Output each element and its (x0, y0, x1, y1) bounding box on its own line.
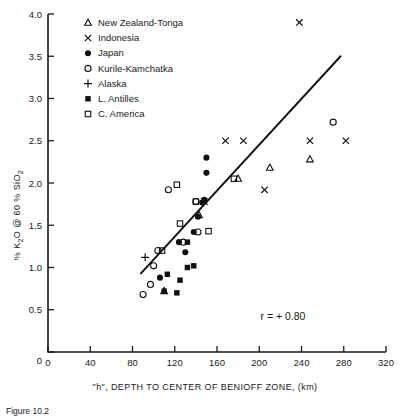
data-point (165, 272, 170, 277)
y-tick-label: 4.0 (29, 9, 42, 20)
x-tick-label: 320 (378, 357, 394, 368)
x-tick-label: 240 (294, 357, 310, 368)
y-tick-label: 2.0 (29, 178, 42, 189)
legend-marker (85, 50, 91, 56)
plot-background (0, 0, 403, 418)
legend-label: Indonesia (98, 32, 140, 43)
data-point (203, 155, 209, 161)
x-tick-label: 120 (167, 357, 183, 368)
data-point (182, 249, 188, 255)
legend-item-kurile-kamchatka: Kurile-Kamchatka (85, 63, 174, 74)
legend-label: Japan (98, 47, 124, 58)
data-point (157, 275, 163, 281)
y-tick-label: 2.5 (29, 135, 42, 146)
x-tick-label: 160 (209, 357, 225, 368)
y-tick-label: 3.0 (29, 93, 42, 104)
data-point (177, 277, 182, 282)
x-tick-label: 200 (251, 357, 267, 368)
plot-canvas: 04080120160200240280320 00.51.01.52.02.5… (0, 0, 403, 418)
data-point (201, 197, 207, 203)
data-point (203, 170, 209, 176)
data-point (191, 263, 196, 268)
y-title-pre: % K (12, 242, 22, 260)
legend-marker (85, 96, 90, 101)
y-tick-label: 3.5 (29, 51, 42, 62)
x-tick-label: 280 (336, 357, 352, 368)
x-tick-label: 80 (127, 357, 138, 368)
data-point (174, 290, 179, 295)
y-tick-label: 1.0 (29, 262, 42, 273)
legend-label: Kurile-Kamchatka (98, 63, 174, 74)
y-tick-label: 0.5 (29, 304, 42, 315)
data-point (161, 288, 166, 293)
x-axis-title: "h", DEPTH TO CENTER OF BENIOFF ZONE, (k… (93, 382, 318, 392)
scatter-plot-figure: 04080120160200240280320 00.51.01.52.02.5… (0, 0, 403, 418)
x-tick-label: 40 (85, 357, 96, 368)
figure-caption: Figure 10.2 (6, 406, 49, 416)
legend-label: L. Antilles (98, 93, 139, 104)
data-point (195, 214, 201, 220)
x-tick-label: 0 (45, 357, 50, 368)
y-tick-label: 0 (37, 355, 42, 366)
legend-label: Alaska (98, 78, 127, 89)
data-point (185, 239, 190, 244)
data-point (185, 265, 190, 270)
y-title-mid: O @ 60 % SiO (12, 174, 22, 238)
legend-label: New Zealand-Tonga (98, 17, 184, 28)
legend-label: C. America (98, 108, 145, 119)
y-title-sub-2: 2 (17, 170, 24, 174)
legend-item-new-zealand-tonga: New Zealand-Tonga (85, 17, 184, 28)
correlation-annotation: r = + 0.80 (261, 310, 306, 322)
y-tick-label: 1.5 (29, 220, 42, 231)
